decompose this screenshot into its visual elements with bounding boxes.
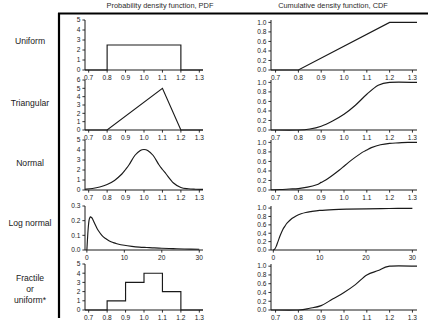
row-label-triangular: Triangular: [11, 98, 50, 108]
series-uniform-pdf: [85, 45, 203, 70]
x-tick-label-fractile-cdf-0: 0.7: [271, 314, 280, 321]
y-tick-label-normal-pdf-2: 2: [77, 166, 81, 173]
x-tick-label-triangular-pdf-2: 0.9: [121, 134, 130, 141]
column-title-pdf: Probability density function, PDF: [107, 1, 214, 10]
plot-triangular-pdf: 0.70.80.91.01.11.21.30123456: [77, 76, 204, 140]
row-label-fractile-2: or: [26, 284, 34, 294]
y-tick-label-triangular-cdf-0: 0.0: [257, 126, 266, 133]
x-tick-label-lognormal-cdf-3: 30: [409, 254, 417, 261]
y-tick-label-fractile-cdf-0: 0.0: [257, 306, 266, 313]
y-tick-label-normal-pdf-3: 3: [77, 156, 81, 163]
series-triangular-cdf: [271, 82, 417, 130]
y-tick-label-triangular-pdf-3: 3: [77, 101, 81, 108]
y-tick-label-uniform-pdf-0: 0: [77, 66, 81, 73]
y-tick-label-lognormal-pdf-0: 0.0: [71, 246, 80, 253]
x-tick-label-uniform-cdf-6: 1.3: [408, 74, 417, 81]
x-tick-label-triangular-pdf-0: 0.7: [84, 134, 93, 141]
y-tick-label-uniform-cdf-1: 0.2: [257, 57, 266, 64]
series-fractile-cdf: [271, 266, 417, 310]
x-tick-label-fractile-pdf-6: 1.3: [195, 314, 204, 321]
y-tick-label-normal-cdf-1: 0.2: [257, 177, 266, 184]
x-tick-label-normal-cdf-1: 0.8: [294, 194, 303, 201]
x-tick-label-triangular-pdf-3: 1.0: [139, 134, 148, 141]
plot-uniform-pdf: 0.70.80.91.01.11.21.3012345: [77, 16, 204, 80]
x-tick-label-fractile-cdf-2: 0.9: [317, 314, 326, 321]
x-tick-label-uniform-cdf-1: 0.8: [294, 74, 303, 81]
y-tick-label-lognormal-pdf-3: 0.3: [71, 202, 80, 209]
x-tick-label-fractile-pdf-2: 0.9: [121, 314, 130, 321]
x-tick-label-triangular-pdf-1: 0.8: [103, 134, 112, 141]
y-tick-label-lognormal-pdf-1: 0.1: [71, 232, 80, 239]
series-triangular-pdf: [85, 88, 203, 130]
x-tick-label-uniform-pdf-6: 1.3: [195, 74, 204, 81]
y-tick-label-normal-cdf-3: 0.6: [257, 158, 266, 165]
x-tick-label-normal-pdf-1: 0.8: [103, 194, 112, 201]
x-tick-label-triangular-cdf-5: 1.2: [385, 134, 394, 141]
y-tick-label-lognormal-pdf-2: 0.2: [71, 217, 80, 224]
y-tick-label-fractile-cdf-4: 0.8: [257, 271, 266, 278]
plot-normal-pdf: 0.70.80.91.01.11.21.3012345: [77, 136, 204, 200]
x-tick-label-fractile-pdf-3: 1.0: [139, 314, 148, 321]
series-lognormal-cdf: [273, 208, 412, 250]
x-tick-label-triangular-cdf-0: 0.7: [271, 134, 280, 141]
y-tick-label-triangular-cdf-4: 0.8: [257, 88, 266, 95]
x-tick-label-fractile-pdf-4: 1.1: [158, 314, 167, 321]
y-tick-label-lognormal-cdf-5: 1.0: [257, 204, 266, 211]
plot-triangular-cdf: 0.70.80.91.01.11.21.30.00.20.40.60.81.0: [257, 79, 417, 141]
y-tick-label-fractile-pdf-1: 1: [77, 297, 81, 304]
x-tick-label-uniform-cdf-3: 1.0: [339, 74, 348, 81]
y-tick-label-lognormal-cdf-3: 0.6: [257, 221, 266, 228]
y-tick-label-triangular-pdf-6: 6: [77, 76, 81, 83]
x-tick-label-fractile-cdf-1: 0.8: [294, 314, 303, 321]
y-tick-label-uniform-cdf-0: 0.0: [257, 66, 266, 73]
plot-normal-cdf: 0.70.80.91.01.11.21.30.00.20.40.60.81.0: [257, 139, 417, 201]
y-tick-label-normal-cdf-5: 1.0: [257, 139, 266, 146]
x-tick-label-fractile-cdf-5: 1.2: [385, 314, 394, 321]
y-tick-label-uniform-pdf-4: 4: [77, 26, 81, 33]
y-tick-label-fractile-cdf-3: 0.6: [257, 280, 266, 287]
x-tick-label-normal-cdf-5: 1.2: [385, 194, 394, 201]
x-tick-label-normal-pdf-5: 1.2: [176, 194, 185, 201]
row-label-normal: Normal: [16, 158, 44, 168]
x-tick-label-triangular-cdf-4: 1.1: [362, 134, 371, 141]
y-tick-label-lognormal-cdf-4: 0.8: [257, 213, 266, 220]
x-tick-label-normal-pdf-6: 1.3: [195, 194, 204, 201]
x-tick-label-lognormal-pdf-3: 30: [196, 254, 204, 261]
row-label-fractile-1: Fractile: [16, 273, 44, 283]
plot-fractile-pdf: 0.70.80.91.01.11.21.3012345: [77, 260, 204, 320]
y-tick-label-lognormal-cdf-2: 0.4: [257, 230, 266, 237]
y-tick-label-normal-cdf-2: 0.4: [257, 167, 266, 174]
y-tick-label-normal-cdf-0: 0.0: [257, 186, 266, 193]
y-tick-label-uniform-cdf-3: 0.6: [257, 38, 266, 45]
y-tick-label-uniform-cdf-2: 0.4: [257, 47, 266, 54]
series-fractile-pdf: [85, 273, 203, 310]
y-tick-label-fractile-pdf-4: 4: [77, 270, 81, 277]
x-tick-label-uniform-pdf-1: 0.8: [103, 74, 112, 81]
distribution-chart-grid: Probability density function, PDF Cumula…: [0, 0, 428, 331]
y-tick-label-triangular-cdf-1: 0.2: [257, 117, 266, 124]
y-tick-label-fractile-cdf-1: 0.2: [257, 298, 266, 305]
y-tick-label-fractile-pdf-5: 5: [77, 260, 81, 267]
x-tick-label-uniform-cdf-2: 0.9: [317, 74, 326, 81]
x-tick-label-uniform-pdf-3: 1.0: [139, 74, 148, 81]
x-tick-label-lognormal-pdf-0: 0: [85, 254, 89, 261]
y-tick-label-fractile-pdf-2: 2: [77, 288, 81, 295]
y-tick-label-fractile-pdf-0: 0: [77, 306, 81, 313]
x-tick-label-uniform-pdf-4: 1.1: [158, 74, 167, 81]
x-tick-label-uniform-pdf-5: 1.2: [176, 74, 185, 81]
x-tick-label-normal-pdf-2: 0.9: [121, 194, 130, 201]
y-tick-label-lognormal-cdf-0: 0.0: [257, 246, 266, 253]
x-tick-label-lognormal-pdf-2: 20: [158, 254, 166, 261]
y-tick-label-triangular-pdf-4: 4: [77, 93, 81, 100]
x-tick-label-normal-cdf-4: 1.1: [362, 194, 371, 201]
x-tick-label-lognormal-cdf-1: 10: [316, 254, 324, 261]
y-tick-label-triangular-pdf-0: 0: [77, 126, 81, 133]
x-tick-label-fractile-pdf-1: 0.8: [103, 314, 112, 321]
y-tick-label-uniform-cdf-5: 1.0: [257, 19, 266, 26]
y-tick-label-triangular-pdf-1: 1: [77, 118, 81, 125]
column-title-cdf: Cumulative density function, CDF: [278, 1, 388, 10]
x-tick-label-lognormal-cdf-0: 0: [271, 254, 275, 261]
x-tick-label-triangular-pdf-4: 1.1: [158, 134, 167, 141]
y-tick-label-triangular-cdf-2: 0.4: [257, 107, 266, 114]
x-tick-label-triangular-cdf-3: 1.0: [339, 134, 348, 141]
